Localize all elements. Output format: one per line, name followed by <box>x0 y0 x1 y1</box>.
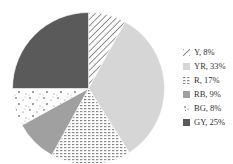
swatch-dots-icon <box>183 105 190 112</box>
swatch-medium-gray-icon <box>183 91 190 98</box>
legend-label: R, 17% <box>194 73 220 87</box>
legend-item-yr: YR, 33% <box>183 59 226 73</box>
legend-label: RB, 9% <box>194 87 221 101</box>
legend-label: Y, 8% <box>194 45 215 59</box>
legend: Y, 8% YR, 33% R, 17% RB, 9% BG, 8% GY, 2… <box>183 45 226 129</box>
swatch-hatch-icon <box>183 49 190 56</box>
swatch-dash-icon <box>183 77 190 84</box>
swatch-dark-gray-icon <box>183 119 190 126</box>
legend-label: BG, 8% <box>194 101 221 115</box>
swatch-light-gray-icon <box>183 63 190 70</box>
pie-slices <box>13 13 165 164</box>
legend-label: YR, 33% <box>194 59 226 73</box>
legend-item-gy: GY, 25% <box>183 115 226 129</box>
legend-item-bg: BG, 8% <box>183 101 226 115</box>
legend-item-rb: RB, 9% <box>183 87 226 101</box>
legend-label: GY, 25% <box>194 115 225 129</box>
pie-slice-gy <box>13 13 89 89</box>
legend-item-r: R, 17% <box>183 73 226 87</box>
legend-item-y: Y, 8% <box>183 45 226 59</box>
